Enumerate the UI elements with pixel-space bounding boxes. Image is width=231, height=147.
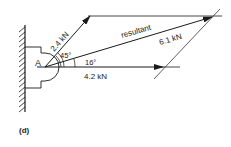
angle-arc-16 (74, 59, 75, 67)
point-label-A: A (35, 58, 41, 68)
force-diagram: A 2.4 kN 45° 16° 4.2 kN resultant 6.1 kN (0, 0, 231, 147)
angle-label-45: 45° (60, 51, 71, 60)
angle-label-16: 16° (85, 58, 96, 67)
resultant-magnitude-label: 6.1 kN (158, 32, 183, 47)
resultant-label: resultant (120, 23, 153, 40)
wall-support (19, 25, 25, 112)
figure-caption: (d) (19, 126, 29, 135)
force-4.2kN-label: 4.2 kN (84, 72, 107, 81)
